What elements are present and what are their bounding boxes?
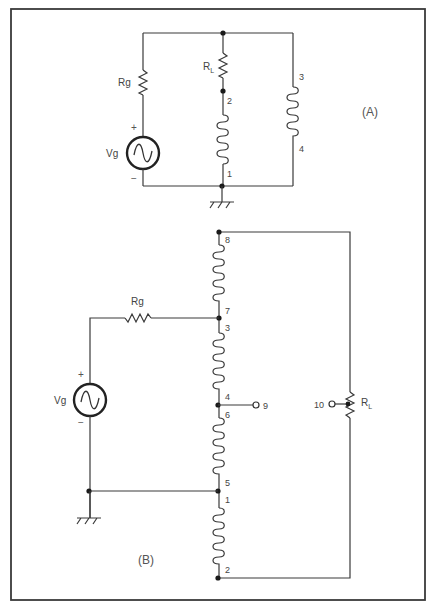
wire-b-rg-left — [90, 318, 125, 384]
resistor-rg-b — [125, 314, 151, 322]
panel-tag-a: (A) — [362, 105, 378, 119]
terminal-2-a: 2 — [227, 96, 232, 106]
resistor-rl-a — [219, 53, 227, 78]
wire-b-top-right — [219, 232, 350, 392]
label-rl-a: RL — [203, 61, 214, 74]
terminal-2-b: 2 — [225, 565, 230, 575]
terminal-10-connector — [329, 401, 335, 407]
label-rg-a: Rg — [118, 77, 131, 88]
terminal-8-b: 8 — [225, 235, 230, 245]
ac-source-a — [127, 137, 159, 169]
terminal-4-a: 4 — [299, 144, 304, 154]
terminal-1-b: 1 — [225, 495, 230, 505]
plus-sign-a: + — [131, 122, 137, 133]
junction-dot — [86, 488, 91, 493]
figure-frame — [11, 9, 425, 600]
label-vg-b: Vg — [54, 395, 66, 406]
terminal-6-b: 6 — [225, 410, 230, 420]
junction-dot — [216, 229, 221, 234]
coil-3-4-b — [213, 333, 224, 392]
terminal-4-b: 4 — [225, 392, 230, 402]
plus-sign-b: + — [78, 369, 84, 380]
minus-sign-a: − — [131, 173, 137, 184]
terminal-3-b: 3 — [225, 323, 230, 333]
coil-6-5-b — [213, 418, 224, 477]
junction-dot — [220, 30, 225, 35]
terminal-5-b: 5 — [225, 478, 230, 488]
label-rl-b: RL — [361, 397, 372, 410]
terminal-1-a: 1 — [227, 169, 232, 179]
coil-2-1-a — [217, 115, 228, 164]
coil-3-4-a — [287, 87, 298, 140]
junction-dot — [215, 575, 220, 580]
ground-icon-b — [77, 491, 101, 524]
terminal-3-a: 3 — [299, 72, 304, 82]
transformer-circuit-diagram: Rg + Vg − RL 2 1 3 4 (A) — [0, 0, 434, 610]
coil-8-7-b — [213, 245, 224, 305]
minus-sign-b: − — [78, 417, 84, 428]
terminal-9-label: 9 — [263, 401, 268, 411]
resistor-rg-a — [139, 70, 147, 95]
wire-b-bottom-right — [218, 418, 350, 578]
terminal-9-connector — [253, 402, 259, 408]
panel-tag-b: (B) — [138, 553, 154, 567]
ac-source-b — [74, 384, 106, 416]
wiper-dot — [346, 402, 351, 407]
panel-a: Rg + Vg − RL 2 1 3 4 (A) — [106, 30, 378, 208]
coil-1-2-b — [213, 508, 224, 578]
terminal-7-b: 7 — [225, 306, 230, 316]
label-vg-a: Vg — [106, 148, 118, 159]
label-rg-b: Rg — [131, 296, 144, 307]
junction-dot — [220, 88, 225, 93]
terminal-10-label: 10 — [314, 400, 324, 410]
ground-icon-a — [210, 186, 234, 208]
panel-b: 8 7 3 4 6 5 1 2 9 Rg + Vg − — [54, 229, 372, 580]
